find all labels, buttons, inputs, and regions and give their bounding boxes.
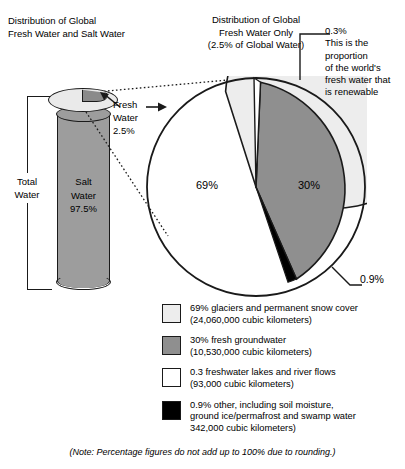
leader-line-other: [330, 265, 364, 293]
pie-value-groundwater: 30%: [298, 179, 320, 191]
total-water-cylinder-group: Total Water Salt Water 97.5% Fresh Water…: [0, 0, 160, 300]
pie-value-glaciers: 69%: [196, 179, 218, 191]
legend-item-glaciers: 69% glaciers and permanent snow cover (2…: [162, 303, 398, 326]
legend-swatch-lakes-rivers: [162, 368, 181, 387]
legend-item-lakes-rivers: 0.3 freshwater lakes and river flows (93…: [162, 367, 398, 390]
legend-swatch-other: [162, 401, 181, 420]
other-annotation: 0.9%: [360, 273, 384, 285]
legend-label-glaciers: 69% glaciers and permanent snow cover (2…: [190, 303, 358, 326]
pie-legend: 69% glaciers and permanent snow cover (2…: [162, 303, 398, 443]
legend-label-groundwater: 30% fresh groundwater (10,530,000 cubic …: [190, 335, 312, 358]
legend-label-other: 0.9% other, including soil moisture, gro…: [190, 400, 356, 435]
legend-swatch-glaciers: [162, 304, 181, 323]
renewable-annotation: 0.3% This is the proportion of the world…: [325, 25, 403, 99]
legend-swatch-groundwater: [162, 336, 181, 355]
legend-item-groundwater: 30% fresh groundwater (10,530,000 cubic …: [162, 335, 398, 358]
legend-item-other: 0.9% other, including soil moisture, gro…: [162, 400, 398, 435]
legend-label-lakes-rivers: 0.3 freshwater lakes and river flows (93…: [190, 367, 336, 390]
rounding-footnote: (Note: Percentage figures do not add up …: [0, 447, 405, 457]
fresh-water-callout: Fresh Water 2.5%: [113, 98, 138, 137]
